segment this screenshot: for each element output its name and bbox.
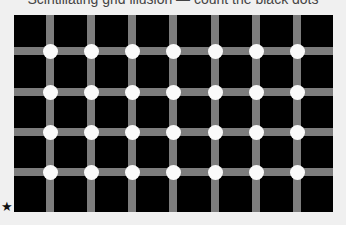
- intersection-dot: [84, 44, 99, 59]
- intersection-dot: [290, 125, 305, 140]
- intersection-dot: [166, 44, 181, 59]
- intersection-dot: [290, 85, 305, 100]
- scintillating-grid: [14, 15, 333, 212]
- intersection-dot: [208, 165, 223, 180]
- intersection-dot: [125, 165, 140, 180]
- star-icon: ★: [1, 200, 13, 213]
- intersection-dot: [166, 125, 181, 140]
- intersection-dot: [166, 165, 181, 180]
- intersection-dot: [43, 44, 58, 59]
- intersection-dot: [84, 165, 99, 180]
- intersection-dot: [43, 165, 58, 180]
- intersection-dot: [166, 85, 181, 100]
- intersection-dot: [290, 44, 305, 59]
- intersection-dot: [249, 165, 264, 180]
- intersection-dot: [125, 85, 140, 100]
- intersection-dot: [43, 85, 58, 100]
- intersection-dot: [249, 125, 264, 140]
- intersection-dot: [43, 125, 58, 140]
- intersection-dot: [84, 85, 99, 100]
- caption-text: Scintillating grid illusion — count the …: [0, 0, 346, 7]
- intersection-dot: [249, 44, 264, 59]
- intersection-dot: [208, 125, 223, 140]
- intersection-dot: [125, 44, 140, 59]
- intersection-dot: [249, 85, 264, 100]
- intersection-dot: [208, 44, 223, 59]
- intersection-dot: [290, 165, 305, 180]
- intersection-dot: [84, 125, 99, 140]
- intersection-dot: [125, 125, 140, 140]
- intersection-dot: [208, 85, 223, 100]
